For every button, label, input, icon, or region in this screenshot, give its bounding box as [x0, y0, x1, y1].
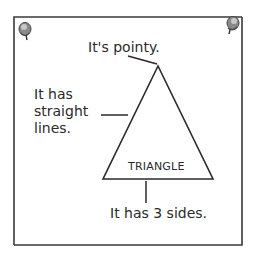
triangle-diagram: It's pointy. It has straight lines. TRIA… — [0, 0, 255, 255]
label-sides: It has 3 sides. — [110, 206, 207, 220]
label-pointy: It's pointy. — [88, 40, 160, 54]
label-straight-1: It has — [34, 87, 73, 101]
label-straight-2: straight — [34, 104, 88, 118]
pin-top-right-icon — [227, 17, 239, 35]
label-straight-3: lines. — [34, 121, 71, 135]
shape-title: TRIANGLE — [128, 161, 185, 172]
pointer-pointy — [128, 56, 157, 64]
pin-top-left-icon — [19, 23, 31, 41]
